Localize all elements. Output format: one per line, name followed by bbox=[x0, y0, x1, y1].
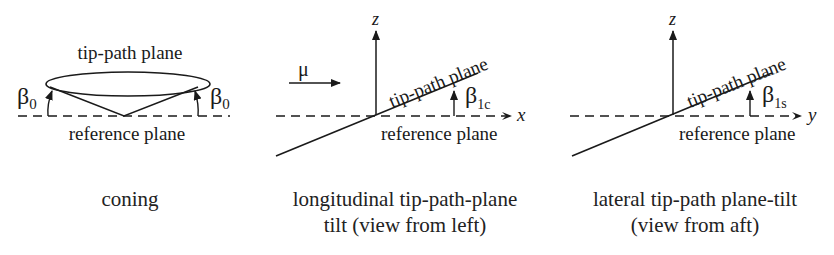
coning-angle-arrow-left bbox=[48, 91, 52, 116]
beta0-left-label: β0 bbox=[17, 83, 37, 112]
caption-line: coning bbox=[40, 186, 220, 212]
caption-line: longitudinal tip-path-plane bbox=[250, 186, 560, 212]
reference-plane-label: reference plane bbox=[69, 123, 186, 144]
beta1s-label: β1s bbox=[762, 81, 787, 111]
caption-line: (view from aft) bbox=[560, 212, 830, 238]
caption-line: lateral tip-path plane-tilt bbox=[560, 186, 830, 212]
beta1c-label: β1c bbox=[465, 82, 490, 112]
caption-longitudinal: longitudinal tip-path-plane tilt (view f… bbox=[250, 186, 560, 238]
caption-line: tilt (view from left) bbox=[250, 212, 560, 238]
mu-label: μ bbox=[298, 58, 309, 81]
reference-plane-label: reference plane bbox=[381, 123, 498, 144]
beta0-right-label: β0 bbox=[210, 83, 230, 112]
caption-coning: coning bbox=[40, 186, 220, 212]
longitudinal-panel: z x tip-path plane β1c μ reference plane bbox=[276, 9, 526, 156]
y-axis-label: y bbox=[806, 104, 817, 125]
coning-panel: tip-path plane β0 β0 reference plane bbox=[17, 42, 230, 144]
tip-path-plane-label: tip-path plane bbox=[78, 42, 183, 63]
y-axis-arrowhead bbox=[792, 112, 802, 120]
lateral-panel: z y tip-path plane β1s reference plane bbox=[570, 9, 817, 156]
coning-angle-arrow-right bbox=[195, 91, 198, 116]
caption-lateral: lateral tip-path plane-tilt (view from a… bbox=[560, 186, 830, 238]
blade-cone bbox=[50, 87, 198, 116]
x-axis-label: x bbox=[516, 104, 526, 125]
reference-plane-label: reference plane bbox=[679, 123, 796, 144]
z-axis-label: z bbox=[371, 9, 379, 29]
z-axis-label: z bbox=[668, 9, 676, 29]
